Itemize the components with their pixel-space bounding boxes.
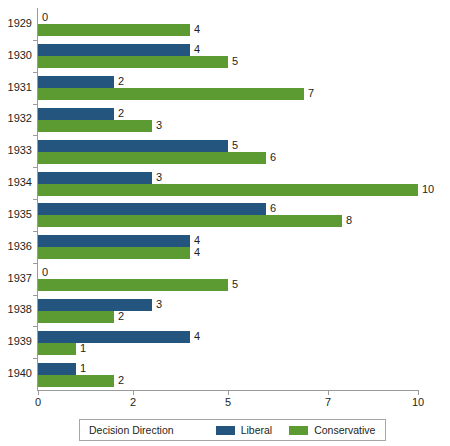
x-axis-tick-label: 2: [130, 396, 136, 408]
legend-entry-conservative[interactable]: Conservative: [289, 424, 375, 436]
bar-value-label: 4: [194, 234, 200, 246]
legend-label-liberal: Liberal: [241, 424, 273, 436]
y-axis-tick-mark: [33, 326, 38, 327]
x-axis-tick-label: 7: [325, 396, 331, 408]
bar-value-label: 10: [422, 183, 434, 195]
y-axis-category-label: 1933: [0, 144, 32, 156]
x-axis-tick-mark: [418, 390, 419, 395]
y-axis-category-label: 1938: [0, 303, 32, 315]
y-axis-category-label: 1932: [0, 112, 32, 124]
x-axis-tick-mark: [133, 390, 134, 395]
bar-value-label: 2: [118, 107, 124, 119]
x-axis-tick-mark: [228, 390, 229, 395]
y-axis-tick-mark: [33, 135, 38, 136]
bar-value-label: 5: [232, 278, 238, 290]
bar-value-label: 2: [118, 374, 124, 386]
y-axis-tick-mark: [33, 199, 38, 200]
x-axis-tick-label: 0: [35, 396, 41, 408]
legend-title: Decision Direction: [89, 424, 174, 436]
bar-value-label: 0: [42, 11, 48, 23]
bar-value-label: 8: [346, 214, 352, 226]
legend-swatch-conservative: [289, 426, 308, 435]
legend-label-conservative: Conservative: [314, 424, 375, 436]
bar-value-label: 6: [270, 202, 276, 214]
bar-conservative-1939[interactable]: [38, 343, 76, 355]
x-axis-tick-label: 5: [225, 396, 231, 408]
bar-value-label: 3: [156, 171, 162, 183]
y-axis-tick-mark: [33, 167, 38, 168]
bar-conservative-1930[interactable]: [38, 56, 228, 68]
bar-conservative-1936[interactable]: [38, 247, 190, 259]
y-axis-category-label: 1939: [0, 335, 32, 347]
x-axis-tick-mark: [328, 390, 329, 395]
bar-conservative-1932[interactable]: [38, 120, 152, 132]
y-axis-category-label: 1937: [0, 272, 32, 284]
y-axis-category-label: 1940: [0, 367, 32, 379]
bar-liberal-1940[interactable]: [38, 363, 76, 375]
y-axis-tick-mark: [33, 358, 38, 359]
y-axis-category-label: 1931: [0, 81, 32, 93]
bar-value-label: 5: [232, 55, 238, 67]
bar-value-label: 3: [156, 298, 162, 310]
bar-liberal-1933[interactable]: [38, 140, 228, 152]
bar-conservative-1937[interactable]: [38, 279, 228, 291]
x-axis-tick-mark: [38, 390, 39, 395]
bar-liberal-1932[interactable]: [38, 108, 114, 120]
bar-value-label: 4: [194, 23, 200, 35]
bar-value-label: 2: [118, 310, 124, 322]
bar-value-label: 7: [308, 87, 314, 99]
bar-value-label: 5: [232, 139, 238, 151]
legend-swatch-liberal: [216, 426, 235, 435]
bar-value-label: 1: [80, 362, 86, 374]
bar-liberal-1930[interactable]: [38, 44, 190, 56]
legend-entry-liberal[interactable]: Liberal: [216, 424, 273, 436]
y-axis-tick-mark: [33, 104, 38, 105]
y-axis-tick-mark: [33, 263, 38, 264]
y-axis-category-label: 1930: [0, 49, 32, 61]
bar-liberal-1938[interactable]: [38, 299, 152, 311]
bar-conservative-1938[interactable]: [38, 311, 114, 323]
bar-value-label: 2: [118, 75, 124, 87]
y-axis-category-label: 1929: [0, 17, 32, 29]
bar-value-label: 4: [194, 43, 200, 55]
y-axis-category-label: 1936: [0, 240, 32, 252]
bar-value-label: 3: [156, 119, 162, 131]
horizontal-bar-chart: 1929193019311932193319341935193619371938…: [0, 0, 450, 446]
bar-conservative-1940[interactable]: [38, 375, 114, 387]
y-axis-tick-mark: [33, 295, 38, 296]
bar-conservative-1934[interactable]: [38, 184, 418, 196]
bar-conservative-1929[interactable]: [38, 24, 190, 36]
bar-conservative-1935[interactable]: [38, 215, 342, 227]
bar-conservative-1933[interactable]: [38, 152, 266, 164]
bar-value-label: 1: [80, 342, 86, 354]
bar-conservative-1931[interactable]: [38, 88, 304, 100]
bar-value-label: 4: [194, 330, 200, 342]
bar-liberal-1939[interactable]: [38, 331, 190, 343]
x-axis-tick-label: 10: [412, 396, 424, 408]
y-axis-category-label: 1934: [0, 176, 32, 188]
bar-liberal-1931[interactable]: [38, 76, 114, 88]
chart-legend: Decision Direction Liberal Conservative: [79, 419, 386, 441]
bar-liberal-1935[interactable]: [38, 203, 266, 215]
bar-value-label: 6: [270, 151, 276, 163]
bar-liberal-1936[interactable]: [38, 235, 190, 247]
y-axis-tick-mark: [33, 231, 38, 232]
y-axis-tick-mark: [33, 72, 38, 73]
bar-value-label: 4: [194, 246, 200, 258]
y-axis-category-label: 1935: [0, 208, 32, 220]
bar-liberal-1934[interactable]: [38, 172, 152, 184]
bar-value-label: 0: [42, 266, 48, 278]
y-axis-tick-mark: [33, 40, 38, 41]
